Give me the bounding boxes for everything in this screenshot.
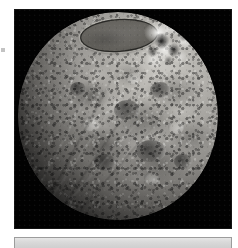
- photo-stage: [14, 9, 232, 229]
- planetary-body: [18, 12, 218, 220]
- planet-disc: [18, 12, 218, 220]
- astronomical-photograph: [14, 9, 232, 229]
- page-root: [0, 0, 238, 248]
- terminator-shadow: [18, 12, 218, 220]
- lower-panel[interactable]: [14, 237, 232, 248]
- registration-mark: [1, 48, 5, 52]
